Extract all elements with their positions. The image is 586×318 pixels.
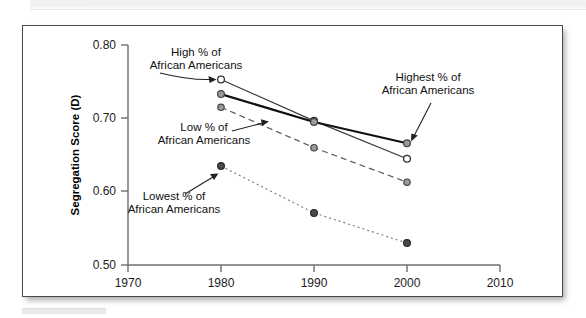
- scan-ghost-text: · · · · · ·: [38, 0, 87, 5]
- scan-artifact-top-strip: · · · · · ·: [30, 0, 586, 10]
- scan-artifact-bottom-bar: [22, 308, 106, 314]
- figure-card: [22, 25, 563, 297]
